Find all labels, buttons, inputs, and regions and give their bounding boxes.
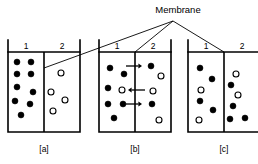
beaker-panels: 12[a]12[b]12[c] xyxy=(8,40,258,154)
solvent-particle-c-6 xyxy=(233,71,239,77)
solvent-particle-b-8 xyxy=(158,73,164,79)
solute-particle-a-1 xyxy=(28,59,34,65)
solute-particle-b-7 xyxy=(148,63,154,69)
solvent-particle-c-2 xyxy=(198,87,204,93)
solvent-particle-b-11 xyxy=(156,117,162,123)
compartment-label-1-c: 1 xyxy=(204,41,209,51)
solute-particle-a-5 xyxy=(30,89,36,95)
membrane-label: Membrane xyxy=(155,4,200,15)
solute-particle-c-1 xyxy=(209,76,215,82)
diagram-canvas: Membrane 12[a]12[b]12[c] xyxy=(0,0,258,164)
solvent-particle-c-5 xyxy=(196,117,202,123)
solute-particle-c-10 xyxy=(227,116,233,122)
solute-particle-b-6 xyxy=(111,115,117,121)
beaker-panel-a: 12[a] xyxy=(8,40,80,154)
solute-particle-b-2 xyxy=(105,85,111,91)
solute-particle-b-5 xyxy=(120,101,126,107)
solvent-particle-a-12 xyxy=(50,108,56,114)
solute-particle-c-11 xyxy=(242,115,248,121)
solute-particle-a-2 xyxy=(14,71,20,77)
solute-particle-c-7 xyxy=(228,82,234,88)
beaker-panel-b: 12[b] xyxy=(99,40,171,154)
solute-particle-a-8 xyxy=(18,112,24,118)
solute-particle-a-6 xyxy=(12,98,18,104)
solvent-particle-a-10 xyxy=(48,89,54,95)
solute-particle-c-9 xyxy=(230,103,236,109)
solute-particle-b-10 xyxy=(149,101,155,107)
panel-caption-b: [b] xyxy=(130,144,139,154)
solute-particle-c-4 xyxy=(210,107,216,113)
membrane-diagram-figure: Membrane 12[a]12[b]12[c] xyxy=(0,0,258,164)
beaker-panel-c: 12[c] xyxy=(188,40,258,154)
flow-arrow-head-b-0 xyxy=(138,63,142,68)
flow-arrow-head-b-2 xyxy=(138,101,142,106)
compartment-label-2-a: 2 xyxy=(60,41,65,51)
compartment-label-1-b: 1 xyxy=(115,41,120,51)
solute-particle-b-1 xyxy=(121,71,127,77)
membrane-leader-line-2 xyxy=(173,21,224,52)
panel-caption-a: [a] xyxy=(39,144,48,154)
solute-particle-a-3 xyxy=(28,71,34,77)
solute-particle-a-7 xyxy=(27,101,33,107)
solute-particle-a-4 xyxy=(14,84,20,90)
solvent-particle-c-8 xyxy=(235,92,241,98)
compartment-label-1-a: 1 xyxy=(24,41,29,51)
solvent-particle-b-3 xyxy=(119,87,125,93)
solute-particle-c-3 xyxy=(197,98,203,104)
solute-particle-c-0 xyxy=(197,65,203,71)
compartment-label-2-c: 2 xyxy=(240,41,245,51)
membrane-leader-lines xyxy=(44,21,224,68)
solute-particle-a-0 xyxy=(14,59,20,65)
solvent-particle-a-11 xyxy=(62,97,68,103)
compartment-label-2-b: 2 xyxy=(151,41,156,51)
panel-caption-c: [c] xyxy=(220,144,229,154)
solute-particle-b-0 xyxy=(107,65,113,71)
solute-particle-b-4 xyxy=(105,101,111,107)
flow-arrow-head-b-1 xyxy=(128,87,132,92)
solvent-particle-a-9 xyxy=(58,70,64,76)
solvent-particle-b-9 xyxy=(150,88,156,94)
